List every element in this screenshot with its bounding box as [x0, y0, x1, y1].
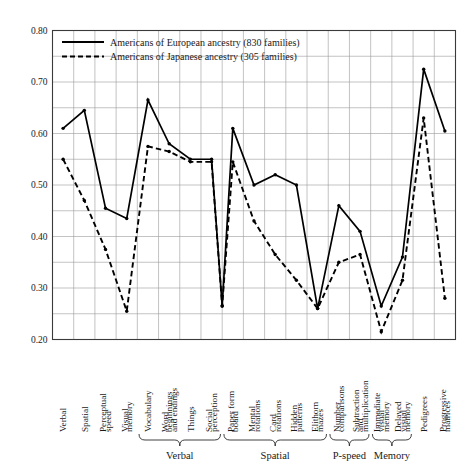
x-tick-line: and endings [169, 387, 179, 432]
x-axis-tick-label: Visualmemory [120, 401, 135, 432]
x-tick-line: memory [402, 401, 412, 432]
y-axis-tick-labels: 0.800.700.600.500.400.300.20 [31, 26, 48, 345]
x-tick-line: Verbal [58, 408, 68, 432]
data-point [146, 98, 149, 101]
legend-label: Americans of Japanese ancestry (305 fami… [110, 51, 297, 63]
data-point [443, 129, 446, 132]
x-axis-tick-label: Progressivematrices [438, 389, 453, 432]
data-point [146, 145, 149, 148]
data-point [380, 330, 383, 333]
x-tick-line: rotations [273, 399, 283, 432]
data-point [337, 204, 340, 207]
x-tick-line: Spatial [80, 406, 90, 432]
group-bracket [139, 434, 221, 446]
group-label: Spatial [261, 450, 290, 461]
x-axis-tick-label: Vocabulary [143, 390, 153, 432]
data-point [380, 304, 383, 307]
x-tick-line: speed [103, 411, 113, 432]
data-point [443, 297, 446, 300]
x-axis-tick-label: Cardrotations [268, 399, 283, 432]
data-point [358, 230, 361, 233]
y-axis-tick-label: 0.20 [31, 335, 48, 345]
x-tick-line: comparisons [336, 385, 346, 432]
data-point [274, 253, 277, 256]
data-point [274, 173, 277, 176]
x-tick-line: Vocabulary [143, 390, 153, 432]
data-point [295, 279, 298, 282]
y-axis-tick-label: 0.50 [31, 180, 48, 190]
x-axis-tick-labels: VerbalSpatialPerceptualspeedVisualmemory… [58, 380, 452, 432]
group-bracket [330, 434, 369, 446]
x-tick-line: matrices [442, 400, 452, 432]
x-axis-tick-label: Numbercomparisons [332, 385, 347, 432]
x-axis-tick-label: Things [186, 406, 196, 432]
legend-label: Americans of European ancestry (830 fami… [110, 37, 300, 49]
data-point [83, 199, 86, 202]
series-european [63, 69, 445, 308]
data-point [189, 158, 192, 161]
x-tick-line: mazes [315, 409, 325, 432]
x-axis-tick-label: Wordbeginningsand endings [160, 387, 179, 432]
data-point [422, 67, 425, 70]
data-point [104, 248, 107, 251]
group-label: Verbal [166, 450, 193, 461]
y-axis-tick-label: 0.70 [31, 77, 48, 87]
data-point [337, 261, 340, 264]
x-axis-tick-label: Elithornmazes [310, 401, 325, 432]
correlation-line-chart: 0.800.700.600.500.400.300.20 Americans o… [0, 0, 468, 469]
x-axis-tick-label: Subtractionandmultiplication [351, 380, 370, 432]
data-point [167, 150, 170, 153]
data-point [422, 116, 425, 119]
y-axis-tick-label: 0.30 [31, 283, 48, 293]
chart-legend: Americans of European ancestry (830 fami… [62, 37, 300, 64]
y-axis-tick-label: 0.60 [31, 129, 48, 139]
data-point [358, 253, 361, 256]
data-point [231, 127, 234, 130]
x-tick-line: Pedigrees [419, 396, 429, 432]
x-axis-tick-label: Paper formboard [226, 391, 241, 432]
group-label: Memory [374, 450, 411, 461]
x-axis-tick-label: Immediatevisualmemory [372, 393, 391, 432]
data-point [167, 142, 170, 145]
data-point [61, 127, 64, 130]
data-point [210, 158, 213, 161]
x-tick-line: board [230, 411, 240, 432]
x-axis-tick-label: Delayedvisualmemory [393, 401, 412, 432]
data-point [401, 255, 404, 258]
series-layer [61, 67, 446, 333]
x-axis-tick-label: Pedigrees [419, 396, 429, 432]
x-tick-line: memory [381, 401, 391, 432]
x-axis-tick-label: Mentalrotations [247, 399, 262, 432]
x-axis-tick-label: Spatial [80, 406, 90, 432]
x-axis-tick-label: Perceptualspeed [98, 393, 113, 432]
x-tick-line: multiplication [360, 380, 370, 432]
data-point [401, 279, 404, 282]
x-tick-line: memory [124, 401, 134, 432]
data-point [104, 206, 107, 209]
group-bracket [372, 434, 411, 446]
series-japanese [63, 118, 445, 332]
data-point [252, 219, 255, 222]
category-group-brackets: VerbalSpatialP-speedMemory [139, 434, 411, 461]
x-axis-tick-label: Socialperception [204, 393, 219, 432]
data-point [316, 307, 319, 310]
data-point [220, 304, 223, 307]
chart-container: 0.800.700.600.500.400.300.20 Americans o… [0, 0, 468, 469]
x-tick-line: perception [209, 393, 219, 432]
group-bracket [224, 434, 327, 446]
data-point [61, 158, 64, 161]
y-axis-tick-label: 0.40 [31, 232, 48, 242]
data-point [83, 109, 86, 112]
data-point [125, 217, 128, 220]
group-label: P-speed [333, 450, 367, 461]
data-point [252, 183, 255, 186]
y-axis-tick-label: 0.80 [31, 26, 48, 36]
x-tick-line: patterns [294, 402, 304, 432]
x-axis-tick-label: Hiddenpatterns [289, 402, 304, 432]
data-point [125, 309, 128, 312]
x-tick-line: rotations [252, 399, 262, 432]
x-axis-tick-label: Verbal [58, 408, 68, 432]
data-point [295, 183, 298, 186]
x-tick-line: Things [186, 406, 196, 432]
